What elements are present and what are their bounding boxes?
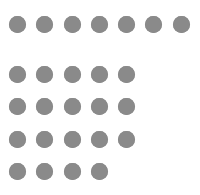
dot-icon: [91, 16, 108, 33]
dot-icon: [91, 98, 108, 115]
dot-figure: [0, 0, 200, 195]
dot-icon: [91, 131, 108, 148]
dot-icon: [118, 66, 135, 83]
dot-icon: [118, 98, 135, 115]
dot-icon: [9, 66, 26, 83]
dot-icon: [64, 98, 81, 115]
dot-icon: [64, 163, 81, 180]
dot-icon: [118, 131, 135, 148]
dot-icon: [9, 98, 26, 115]
dot-icon: [9, 131, 26, 148]
dot-icon: [173, 16, 190, 33]
dot-icon: [36, 66, 53, 83]
dot-icon: [91, 163, 108, 180]
dot-icon: [36, 131, 53, 148]
dot-icon: [36, 163, 53, 180]
dot-icon: [36, 16, 53, 33]
dot-icon: [36, 98, 53, 115]
dot-icon: [9, 16, 26, 33]
dot-icon: [64, 16, 81, 33]
dot-icon: [145, 16, 162, 33]
dot-icon: [64, 131, 81, 148]
dot-icon: [118, 16, 135, 33]
dot-icon: [9, 163, 26, 180]
dot-icon: [64, 66, 81, 83]
dot-icon: [91, 66, 108, 83]
